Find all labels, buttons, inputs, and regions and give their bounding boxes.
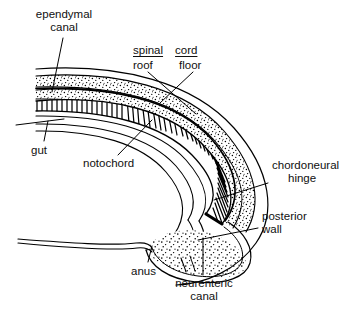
posterior-wall-bulb xyxy=(146,222,251,283)
ventral-wall-and-anus xyxy=(18,239,152,252)
label-neurenteric-canal-line1: neurenteric xyxy=(166,277,242,290)
label-cord: cord xyxy=(175,44,197,57)
label-spinal: spinal xyxy=(133,44,163,57)
label-spinal-cord-heading: spinalcord xyxy=(133,44,197,57)
label-ependymal-canal-line2: canal xyxy=(18,21,110,34)
label-notochord: notochord xyxy=(83,157,134,170)
label-neurenteric-canal: neurenteric canal xyxy=(166,277,242,303)
label-ependymal-canal: ependymal canal xyxy=(18,8,110,34)
label-posterior-wall-line2: wall xyxy=(262,223,332,236)
label-chordoneural-hinge-line2: hinge xyxy=(288,172,358,185)
label-chordoneural-hinge: chordoneural hinge xyxy=(272,159,358,185)
label-neurenteric-canal-line2: canal xyxy=(166,290,242,303)
diagram-canvas: ependymal canal spinalcord roof floor gu… xyxy=(0,0,361,309)
label-chordoneural-hinge-line1: chordoneural xyxy=(272,159,358,172)
inner-body-outline xyxy=(36,131,182,250)
label-posterior-wall-line1: posterior xyxy=(262,210,332,223)
label-posterior-wall: posterior wall xyxy=(262,210,332,236)
label-roof: roof xyxy=(133,59,153,72)
label-gut: gut xyxy=(31,144,47,157)
label-ependymal-canal-line1: ependymal xyxy=(18,8,110,21)
label-anus: anus xyxy=(131,265,156,278)
label-floor: floor xyxy=(179,59,201,72)
